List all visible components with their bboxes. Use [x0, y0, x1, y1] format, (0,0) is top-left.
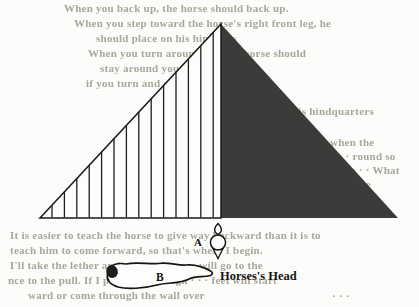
label-b: B — [156, 271, 164, 283]
label-a: A — [194, 236, 202, 248]
caption-horses-head: Horses's Head — [220, 269, 297, 283]
triangle-diagram: A B Horses's Head — [0, 0, 419, 307]
triangle-right-solid — [221, 24, 398, 218]
marker-a-body — [210, 235, 225, 250]
marker-a-top-petal — [215, 224, 222, 235]
triangle-left-hatched — [40, 24, 221, 218]
scanned-book-page: When you back up, the horse should back … — [0, 0, 419, 307]
marker-a — [210, 224, 225, 259]
